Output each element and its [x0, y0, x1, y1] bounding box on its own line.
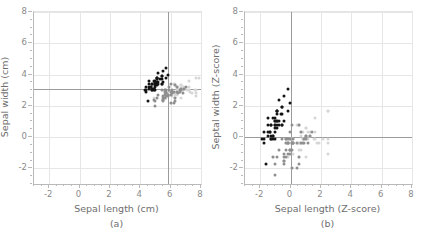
- y-tick-minor: [241, 120, 243, 121]
- panel-caption-a: (a): [110, 219, 123, 229]
- data-point: [274, 120, 277, 123]
- y-tick-minor: [30, 58, 32, 59]
- data-point: [159, 78, 162, 81]
- data-point: [290, 123, 293, 126]
- gridline-vertical: [110, 12, 111, 184]
- y-tick-minor: [241, 89, 243, 90]
- gridline-vertical: [49, 12, 50, 184]
- data-point: [288, 102, 291, 105]
- data-point: [145, 89, 148, 92]
- x-tick-minor: [358, 184, 359, 186]
- x-tick-label: 8: [408, 190, 413, 199]
- data-point: [180, 97, 183, 100]
- gridline-vertical: [80, 12, 81, 184]
- data-point: [281, 138, 284, 141]
- data-point: [169, 93, 172, 96]
- x-tick-major: [259, 184, 260, 188]
- x-tick-label: 6: [378, 190, 383, 199]
- gridline-horizontal: [34, 75, 201, 76]
- gridline-vertical: [351, 12, 352, 184]
- data-point: [181, 92, 184, 95]
- y-tick-minor: [241, 152, 243, 153]
- y-tick-major: [239, 42, 243, 43]
- data-point: [275, 112, 278, 115]
- x-tick-minor: [101, 184, 102, 186]
- y-tick-minor: [30, 160, 32, 161]
- y-tick-minor: [30, 120, 32, 121]
- y-tick-label: 2: [221, 101, 238, 110]
- data-point: [174, 100, 177, 103]
- data-point: [299, 130, 302, 133]
- data-point: [162, 81, 165, 84]
- data-point: [307, 130, 310, 133]
- gridline-vertical: [201, 12, 202, 184]
- data-point: [272, 156, 275, 159]
- x-tick-major: [350, 184, 351, 188]
- x-tick-label: -2: [44, 190, 52, 199]
- x-tick-minor: [297, 184, 298, 186]
- data-point: [308, 134, 311, 137]
- data-point: [272, 116, 275, 119]
- y-tick-label: 4: [10, 69, 27, 78]
- data-point: [281, 123, 284, 126]
- y-tick-minor: [30, 19, 32, 20]
- data-point: [274, 138, 277, 141]
- data-point: [275, 109, 278, 112]
- data-point: [165, 92, 168, 95]
- y-tick-minor: [30, 152, 32, 153]
- mean-line-vertical: [291, 12, 292, 184]
- data-point: [195, 95, 198, 98]
- data-point: [155, 97, 158, 100]
- data-point: [286, 141, 289, 144]
- x-tick-label: 4: [137, 190, 142, 199]
- data-point: [314, 130, 317, 133]
- y-tick-minor: [241, 113, 243, 114]
- data-point: [299, 134, 302, 137]
- y-tick-label: -2: [10, 163, 27, 172]
- y-tick-minor: [30, 66, 32, 67]
- panel-caption-b: (b): [321, 219, 334, 229]
- y-tick-major: [239, 74, 243, 75]
- data-point: [303, 141, 306, 144]
- data-point: [292, 152, 295, 155]
- y-tick-major: [28, 105, 32, 106]
- x-tick-minor: [396, 184, 397, 186]
- y-tick-minor: [241, 19, 243, 20]
- data-point: [279, 112, 282, 115]
- x-tick-minor: [86, 184, 87, 186]
- x-tick-minor: [267, 184, 268, 186]
- x-tick-minor: [335, 184, 336, 186]
- y-tick-minor: [30, 27, 32, 28]
- x-tick-label: 6: [167, 190, 172, 199]
- data-point: [169, 82, 172, 85]
- y-tick-minor: [30, 50, 32, 51]
- y-tick-label: 2: [10, 101, 27, 110]
- y-tick-minor: [241, 81, 243, 82]
- y-tick-minor: [30, 175, 32, 176]
- y-tick-minor: [241, 144, 243, 145]
- data-point: [296, 166, 299, 169]
- x-tick-minor: [403, 184, 404, 186]
- gridline-horizontal: [245, 106, 412, 107]
- data-point: [290, 141, 293, 144]
- x-tick-minor: [154, 184, 155, 186]
- data-point: [305, 156, 308, 159]
- y-axis-title-a: Sepal width (cm): [0, 57, 9, 137]
- x-tick-major: [79, 184, 80, 188]
- gridline-vertical: [321, 12, 322, 184]
- data-point: [195, 89, 198, 92]
- data-point: [266, 130, 269, 133]
- gridline-horizontal: [34, 12, 201, 13]
- data-point: [286, 138, 289, 141]
- y-tick-minor: [241, 27, 243, 28]
- y-tick-major: [239, 105, 243, 106]
- data-point: [162, 70, 165, 73]
- x-tick-minor: [365, 184, 366, 186]
- mean-line-vertical: [168, 12, 169, 184]
- data-point: [266, 134, 269, 137]
- y-tick-minor: [241, 66, 243, 67]
- data-point: [292, 138, 295, 141]
- data-point: [270, 123, 273, 126]
- data-point: [157, 71, 160, 74]
- data-point: [297, 156, 300, 159]
